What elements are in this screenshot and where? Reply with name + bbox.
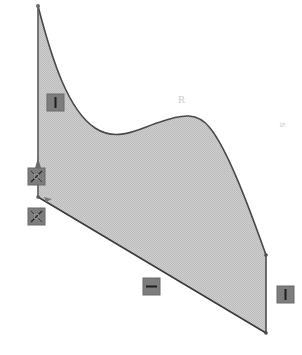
endpoint-right-top[interactable]	[264, 253, 268, 257]
endpoint-top-left[interactable]	[36, 4, 40, 8]
sketch-canvas[interactable]	[0, 0, 302, 355]
endpoint-bottom-left[interactable]	[36, 195, 40, 199]
coincident-relation-icon[interactable]	[28, 168, 45, 185]
side-annotation-label: S	[278, 122, 286, 129]
horizontal-relation-icon[interactable]	[143, 278, 160, 295]
coincident-relation-icon[interactable]	[28, 208, 45, 225]
vertical-relation-icon[interactable]	[47, 94, 64, 111]
endpoint-right-bottom[interactable]	[264, 331, 268, 335]
peak-annotation-label: R	[178, 96, 185, 105]
vertical-relation-icon[interactable]	[277, 286, 294, 303]
